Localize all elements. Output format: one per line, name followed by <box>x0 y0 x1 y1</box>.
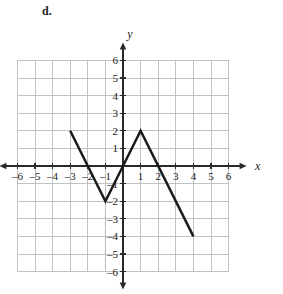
y-axis-tick-label: –4 <box>106 230 119 242</box>
x-axis-tick-label: –6 <box>11 170 24 182</box>
y-axis-tick-label: 2 <box>113 125 119 137</box>
y-axis-tick-label: –3 <box>106 213 119 225</box>
x-axis-arrow-right-icon <box>240 163 247 170</box>
x-axis-tick-label: –5 <box>29 170 42 182</box>
y-axis-tick-label: 6 <box>113 54 119 66</box>
x-axis-tick-label: 1 <box>138 170 144 182</box>
y-axis-tick-label: –5 <box>106 248 119 260</box>
y-axis-tick-label: 1 <box>113 142 119 154</box>
x-axis-tick-label: 6 <box>226 170 232 182</box>
x-axis-label: x <box>254 159 261 173</box>
y-axis-arrow-down-icon <box>120 283 127 290</box>
x-axis-tick-label: 4 <box>191 170 197 182</box>
y-axis-tick-label: 5 <box>113 72 119 84</box>
y-axis-arrow-up-icon <box>120 42 127 49</box>
y-axis-label: y <box>126 27 133 41</box>
graph-figure-page: d. –6–5–4–3–2–1123456 654321–1–2–3–4–5–6 <box>0 0 283 294</box>
coordinate-plane: –6–5–4–3–2–1123456 654321–1–2–3–4–5–6 x … <box>0 0 283 294</box>
x-axis-tick-label: –4 <box>46 170 59 182</box>
y-axis-tick-label: 3 <box>113 107 119 119</box>
y-axis-tick-label: –6 <box>106 266 119 278</box>
x-axis-arrow-left-icon <box>0 163 6 170</box>
x-axis-tick-label: 3 <box>173 170 179 182</box>
x-axis-tick-label: –3 <box>64 170 77 182</box>
y-axis-tick-label: 4 <box>113 90 119 102</box>
coordinate-plane-svg: –6–5–4–3–2–1123456 654321–1–2–3–4–5–6 x … <box>0 0 283 294</box>
x-axis-tick-label: 5 <box>208 170 214 182</box>
